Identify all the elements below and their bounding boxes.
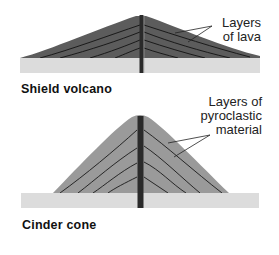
cinder-annotation-line: pyroclastic [201,109,262,123]
shield-volcano-title: Shield volcano [21,82,112,96]
cinder-annotation-line: Layers of [201,95,262,109]
cinder-conduit [138,116,144,208]
cinder-annotation-line: material [201,123,262,137]
cinder-cone-title: Cinder cone [22,218,96,232]
shield-annotation-line: of lava [222,30,261,44]
shield-annotation: Layers of lava [222,16,261,44]
shield-conduit [140,15,144,73]
shield-annotation-line: Layers [222,16,261,30]
cinder-annotation: Layers of pyroclastic material [201,95,262,137]
